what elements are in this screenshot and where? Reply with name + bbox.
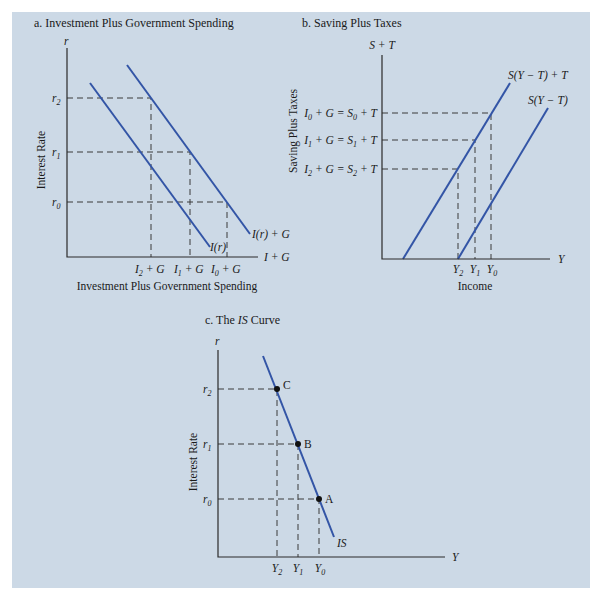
svg-text:r2: r2 xyxy=(203,383,211,398)
guide-r2-c xyxy=(218,389,277,557)
panel-a-x-symbol: I + G xyxy=(263,251,290,263)
svg-text:I0 + G: I0 + G xyxy=(210,263,241,278)
guide-r0-a xyxy=(67,202,227,257)
point-b xyxy=(295,441,301,447)
point-a-label: A xyxy=(325,493,334,505)
svg-text:I2 + G: I2 + G xyxy=(134,263,165,278)
curve-saving xyxy=(458,108,548,259)
panel-a-investment: a. Investment Plus Government Spending r… xyxy=(34,16,290,293)
panel-c-title: c. The IS Curve xyxy=(205,313,280,327)
svg-text:Y0: Y0 xyxy=(315,562,325,577)
panel-a-title: a. Investment Plus Government Spending xyxy=(34,16,234,30)
panel-a-x-ticks: I2 + G I1 + G I0 + G xyxy=(134,263,241,278)
svg-text:I0 + G = S0 + T: I0 + G = S0 + T xyxy=(303,107,378,122)
svg-text:r1: r1 xyxy=(203,438,211,453)
panel-b-x-symbol: Y xyxy=(558,253,566,265)
panel-b-saving: b. Saving Plus Taxes S + T Saving Plus T… xyxy=(287,16,569,292)
curve-investment-plus-g xyxy=(127,65,250,234)
panel-c-y-symbol: r xyxy=(215,335,220,347)
label-saving-plus-taxes: S(Y − T) + T xyxy=(508,69,569,82)
panel-c-axes xyxy=(218,350,445,557)
svg-text:I2 + G = S2 + T: I2 + G = S2 + T xyxy=(303,163,378,178)
label-investment-plus-g: I(r) + G xyxy=(251,228,290,241)
panel-b-x-ticks: Y2 Y1 Y0 xyxy=(453,263,497,278)
point-a xyxy=(316,496,322,502)
label-saving: S(Y − T) xyxy=(528,94,568,107)
svg-text:Y1: Y1 xyxy=(470,263,480,278)
svg-text:Y1: Y1 xyxy=(293,562,303,577)
panel-a-y-label: Interest Rate xyxy=(35,131,47,189)
panel-a-y-symbol: r xyxy=(64,35,69,47)
panel-b-y-ticks: I0 + G = S0 + T I1 + G = S1 + T I2 + G =… xyxy=(303,107,378,178)
label-is: IS xyxy=(336,537,347,549)
panel-a-x-label: Investment Plus Government Spending xyxy=(77,280,258,293)
curve-investment xyxy=(90,83,210,247)
svg-text:r1: r1 xyxy=(52,146,60,161)
point-c xyxy=(274,386,280,392)
point-b-label: B xyxy=(304,438,312,450)
guide-r0-c xyxy=(218,499,319,557)
panel-b-y-symbol: S + T xyxy=(369,39,396,51)
panel-c-y-ticks: r2 r1 r0 xyxy=(203,383,211,508)
panel-b-y-label: Saving Plus Taxes xyxy=(287,89,300,173)
guide-r1-a xyxy=(67,152,190,257)
panel-c-x-symbol: Y xyxy=(452,551,460,563)
svg-text:I1 + G = S1 + T: I1 + G = S1 + T xyxy=(303,134,378,149)
panel-b-title: b. Saving Plus Taxes xyxy=(302,16,402,30)
svg-text:r2: r2 xyxy=(52,92,60,107)
is-curve-derivation-diagram: a. Investment Plus Government Spending r… xyxy=(0,0,604,604)
guide-r2-a xyxy=(67,98,151,257)
guide-r1-c xyxy=(218,444,298,557)
curve-saving-plus-taxes xyxy=(403,83,510,259)
guide-s2 xyxy=(382,169,458,259)
panel-c-y-label: Interest Rate xyxy=(187,433,199,491)
svg-text:Y2: Y2 xyxy=(453,263,463,278)
svg-text:I1 + G: I1 + G xyxy=(173,263,204,278)
guide-s1 xyxy=(382,140,475,259)
svg-text:Y0: Y0 xyxy=(487,263,497,278)
panel-c-x-ticks: Y2 Y1 Y0 xyxy=(272,562,325,577)
svg-text:r0: r0 xyxy=(203,493,211,508)
label-investment: I(r) xyxy=(209,241,226,254)
panel-a-y-ticks: r2 r1 r0 xyxy=(52,92,60,211)
panel-b-x-label: Income xyxy=(458,280,492,292)
panel-c-is-curve: c. The IS Curve r Interest Rate C B A r2… xyxy=(187,313,460,577)
svg-text:r0: r0 xyxy=(52,196,60,211)
point-c-label: C xyxy=(283,379,291,391)
svg-text:Y2: Y2 xyxy=(272,562,282,577)
